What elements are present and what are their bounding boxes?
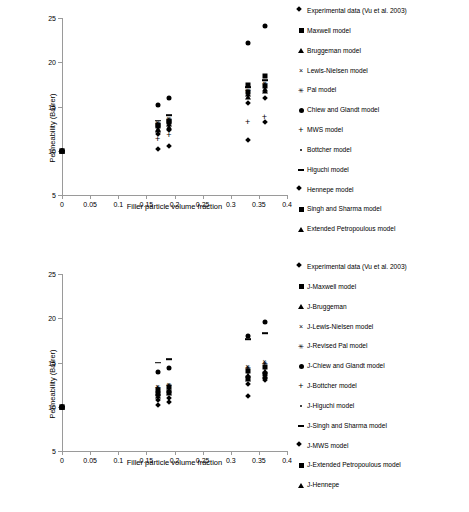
legend-marker-icon (296, 165, 306, 175)
legend-marker-icon: ✳ (296, 341, 306, 351)
legend-label: J-Lewis-Nielsen model (307, 323, 373, 331)
legend-item: Singh and Sharma model (296, 204, 469, 214)
legend-label: Hennepe model (307, 186, 354, 194)
legend-item: J-MWS model (296, 441, 469, 451)
legend-item: Bruggeman model (296, 46, 469, 56)
data-point (166, 391, 172, 396)
data-point (245, 86, 251, 88)
data-point (245, 94, 251, 99)
y-tick (58, 18, 62, 19)
x-axis-label-bottom: Filler particle volume fraction (62, 458, 287, 467)
legend-label: J-Singh and Sharma model (307, 422, 387, 430)
legend-label: J-Bottcher model (307, 382, 357, 390)
legend-marker-icon (296, 6, 306, 16)
legend-top: Experimental data (Vu et al. 2003)Maxwel… (296, 0, 469, 256)
legend-marker-icon (296, 441, 306, 451)
data-point (245, 393, 251, 399)
legend-marker-icon (296, 480, 306, 490)
data-point (262, 95, 268, 101)
legend-marker-icon (296, 262, 306, 272)
y-tick (58, 318, 62, 319)
legend-marker-icon (296, 401, 306, 411)
legend-item: ✳J-Revised Pal model (296, 341, 469, 351)
data-point (262, 84, 267, 89)
legend-item: J-Maxwell model (296, 282, 469, 292)
y-axis-line-top (62, 18, 63, 195)
x-tick (231, 451, 232, 455)
legend-item: J-Chiew and Glandt model (296, 361, 469, 371)
data-point (262, 319, 267, 324)
x-tick (231, 195, 232, 199)
legend-label: Lewis-Nielsen model (307, 67, 368, 75)
data-point (59, 404, 65, 409)
data-point (166, 365, 171, 370)
data-point (166, 124, 172, 129)
legend-marker-icon (296, 282, 306, 292)
data-point (245, 40, 250, 45)
y-tick (58, 107, 62, 108)
legend-marker-icon (296, 145, 306, 155)
data-point (166, 95, 171, 100)
legend-item: Higuchi model (296, 165, 469, 175)
y-tick-label: 15 (48, 359, 56, 366)
chart-bottom: Permeability (Barrer) 51015202500.050.10… (0, 256, 469, 512)
legend-marker-icon (296, 26, 306, 36)
legend-item: ×J-Lewis-Nielsen model (296, 322, 469, 332)
legend-label: J-Chiew and Glandt model (307, 362, 385, 370)
x-tick (175, 451, 176, 455)
y-tick-label: 5 (52, 448, 56, 455)
legend-marker-icon: × (296, 322, 306, 332)
legend-label: J-Higuchi model (307, 402, 354, 410)
x-tick (259, 195, 260, 199)
x-tick (146, 451, 147, 455)
data-point (264, 365, 266, 367)
x-tick (203, 451, 204, 455)
legend-marker-icon (296, 421, 306, 431)
data-point (245, 377, 251, 382)
y-tick-label: 20 (48, 315, 56, 322)
legend-label: J-Revised Pal model (307, 342, 367, 350)
legend-label: Experimental data (Vu et al. 2003) (307, 263, 407, 271)
data-point (166, 143, 172, 149)
data-point (59, 148, 65, 153)
legend-label: Bruggeman model (307, 47, 361, 55)
legend-item: J-Singh and Sharma model (296, 421, 469, 431)
data-point (155, 394, 161, 399)
legend-label: Chiew and Glandt model (307, 106, 379, 114)
y-tick (58, 274, 62, 275)
legend-label: Higuchi model (307, 166, 349, 174)
legend-item: Experimental data (Vu et al. 2003) (296, 6, 469, 16)
legend-item: Experimental data (Vu et al. 2003) (296, 262, 469, 272)
data-point (245, 100, 251, 106)
data-point (155, 370, 160, 375)
legend-item: J-Extended Petropoulous model (296, 460, 469, 470)
legend-label: Maxwell model (307, 27, 351, 35)
legend-marker-icon (296, 361, 306, 371)
y-tick (58, 62, 62, 63)
legend-marker-icon: ✳ (296, 85, 306, 95)
data-point (157, 388, 159, 390)
y-tick-label: 10 (48, 403, 56, 410)
legend-item: +MWS model (296, 125, 469, 135)
data-point: + (244, 118, 251, 127)
x-tick (287, 451, 288, 455)
x-tick (146, 195, 147, 199)
legend-label: J-Extended Petropoulous model (307, 461, 401, 469)
data-point (245, 333, 250, 338)
y-axis-line-bottom (62, 274, 63, 451)
legend-label: Singh and Sharma model (307, 205, 381, 213)
legend-item: Chiew and Glandt model (296, 105, 469, 115)
legend-label: Experimental data (Vu et al. 2003) (307, 7, 407, 15)
x-tick (118, 451, 119, 455)
y-tick-label: 15 (48, 103, 56, 110)
x-tick (90, 451, 91, 455)
y-tick-label: 10 (48, 147, 56, 154)
legend-item: ✳Pal model (296, 85, 469, 95)
legend-label: MWS model (307, 126, 343, 134)
legend-label: Extended Petropoulous model (307, 225, 395, 233)
legend-marker-icon (296, 46, 306, 56)
legend-item: Hennepe model (296, 185, 469, 195)
plot-area-top: 51015202500.050.10.150.20.250.30.350.4××… (62, 18, 287, 195)
legend-marker-icon (296, 224, 306, 234)
x-tick (175, 195, 176, 199)
